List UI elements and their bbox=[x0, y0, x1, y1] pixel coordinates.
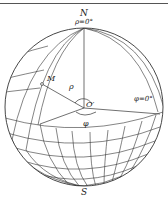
south-pole-label: S bbox=[81, 187, 87, 197]
cutaway-lines bbox=[40, 28, 160, 124]
phi-zero-label: φ=0° bbox=[134, 95, 153, 103]
point-m-label: M bbox=[46, 74, 56, 83]
north-pole-label: N bbox=[79, 8, 89, 18]
rho-angle-label: ρ bbox=[68, 82, 74, 91]
sphere-diagram: N ρ=0° M ρ O′ φ=0° φ S bbox=[0, 0, 168, 199]
rho-zero-label: ρ=0° bbox=[74, 18, 93, 26]
center-label: O′ bbox=[86, 100, 95, 109]
phi-angle-label: φ bbox=[83, 119, 89, 128]
